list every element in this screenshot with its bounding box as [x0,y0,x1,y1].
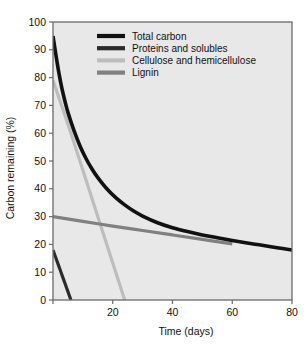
legend-swatch [97,58,125,62]
y-tick-label: 60 [34,127,46,139]
legend-swatch [97,71,125,75]
x-tick-label: 20 [107,306,119,318]
legend-swatch [97,34,125,38]
y-tick-label: 90 [34,43,46,55]
y-tick-label: 50 [34,155,46,167]
x-tick-label: 40 [167,306,179,318]
legend-label: Proteins and solubles [132,43,228,54]
y-tick-label: 100 [28,16,46,28]
y-tick-label: 0 [40,294,46,306]
y-axis-tick-labels: 0102030405060708090100 [28,16,46,306]
x-tick-label: 60 [226,306,238,318]
legend-swatch [97,46,125,50]
carbon-decomposition-line-chart: 0102030405060708090100 20406080 Time (da… [0,0,308,352]
y-axis-title: Carbon remaining (%) [4,117,16,220]
y-tick-label: 20 [34,238,46,250]
y-tick-label: 30 [34,210,46,222]
y-tick-label: 80 [34,71,46,83]
y-tick-label: 10 [34,266,46,278]
y-tick-label: 40 [34,182,46,194]
y-tick-label: 70 [34,99,46,111]
x-tick-label: 80 [286,306,298,318]
figure-container: 0102030405060708090100 20406080 Time (da… [0,0,308,352]
legend-label: Total carbon [132,31,186,42]
legend-label: Cellulose and hemicellulose [132,55,256,66]
legend-label: Lignin [132,67,159,78]
x-axis-tick-labels: 20406080 [107,306,298,318]
x-axis-title: Time (days) [158,325,213,337]
